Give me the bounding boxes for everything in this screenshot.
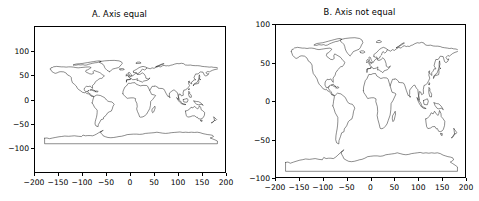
- x-tick-mark: [226, 173, 227, 176]
- coastline-north-america: [50, 66, 104, 96]
- x-tick-mark: [442, 178, 443, 181]
- y-tick-label: 50: [0, 71, 29, 80]
- x-tick-label: 50: [149, 178, 159, 187]
- x-tick-mark: [106, 173, 107, 176]
- coastline-britain: [128, 72, 131, 76]
- coastline-ireland: [126, 74, 128, 76]
- x-tick-mark: [371, 178, 372, 181]
- y-tick-mark: [272, 63, 275, 64]
- coastline-south-america: [333, 93, 355, 144]
- y-tick-mark: [31, 75, 34, 76]
- x-tick-mark: [58, 173, 59, 176]
- coastline-novaya-zemlya: [396, 43, 404, 48]
- x-tick-mark: [178, 173, 179, 176]
- coastline-novaya-zemlya: [156, 64, 164, 67]
- coastline-africa: [123, 83, 156, 117]
- coastline-madagascar: [152, 107, 155, 113]
- subplot-axis-not-equal: B. Axis not equal −200−150−100−500501001…: [240, 0, 479, 201]
- coastline-layer: [34, 26, 226, 173]
- coastline-new-guinea: [434, 103, 443, 110]
- x-tick-mark: [323, 178, 324, 181]
- x-tick-label: −200: [24, 178, 45, 187]
- coastline-java-sumatra: [417, 98, 426, 109]
- coastline-canada-arctic-1: [314, 38, 342, 45]
- coastline-philippines: [189, 92, 192, 98]
- coastline-south-america: [92, 95, 114, 127]
- coastline-hispaniola: [95, 91, 98, 92]
- y-tick-mark: [31, 124, 34, 125]
- x-tick-mark: [275, 178, 276, 181]
- y-tick-label: 0: [239, 97, 270, 106]
- y-tick-label: −50: [239, 135, 270, 144]
- coastline-cuba: [90, 89, 95, 91]
- coastline-sri-lanka: [169, 97, 170, 98]
- x-tick-label: 0: [368, 183, 373, 192]
- x-tick-mark: [299, 178, 300, 181]
- y-tick-mark: [272, 24, 275, 25]
- coastline-taiwan: [429, 83, 430, 85]
- x-tick-mark: [82, 173, 83, 176]
- coastline-java-sumatra: [177, 98, 186, 105]
- coastline-scandinavia: [133, 66, 147, 73]
- y-tick-label: 100: [239, 20, 270, 29]
- coastline-asia-east: [150, 69, 218, 100]
- y-tick-mark: [31, 51, 34, 52]
- y-tick-mark: [31, 148, 34, 149]
- x-tick-label: 200: [459, 183, 474, 192]
- y-tick-label: −50: [0, 119, 29, 128]
- coastline-cuba: [331, 84, 336, 87]
- x-tick-mark: [154, 173, 155, 176]
- x-tick-label: 0: [128, 178, 133, 187]
- coastline-sri-lanka: [410, 96, 411, 98]
- x-tick-mark: [34, 173, 35, 176]
- panel-b-axes: [275, 24, 466, 178]
- coastline-layer: [275, 24, 466, 178]
- coastline-britain: [369, 57, 372, 64]
- panel-a-title: A. Axis equal: [0, 9, 239, 19]
- coastline-africa: [363, 74, 396, 129]
- x-tick-mark: [130, 173, 131, 176]
- x-tick-label: −100: [312, 183, 333, 192]
- x-tick-label: 150: [435, 183, 450, 192]
- coastline-philippines: [429, 88, 432, 97]
- x-tick-label: −100: [72, 178, 93, 187]
- figure-canvas: A. Axis equal −200−150−100−5005010015020…: [0, 0, 479, 201]
- coastline-eurasia: [367, 58, 390, 73]
- coastline-svalbard: [377, 40, 382, 42]
- coastline-asia-east: [390, 52, 457, 101]
- coastline-new-guinea: [194, 101, 203, 105]
- coastline-svalbard: [136, 62, 141, 63]
- coastline-japan: [434, 67, 441, 78]
- coastline-sakhalin: [439, 61, 440, 67]
- coastline-antarctica: [286, 150, 458, 172]
- coastline-madagascar: [392, 112, 395, 122]
- panel-a-axes: [34, 26, 226, 173]
- y-tick-mark: [272, 178, 275, 179]
- coastline-borneo-indonesia: [424, 99, 429, 105]
- coastline-greenland: [99, 60, 122, 71]
- x-tick-mark: [202, 173, 203, 176]
- panel-b-title: B. Axis not equal: [240, 7, 479, 17]
- coastline-tasmania: [441, 134, 443, 136]
- coastline-australia: [185, 106, 204, 119]
- y-tick-mark: [272, 101, 275, 102]
- subplot-axis-equal: A. Axis equal −200−150−100−5005010015020…: [0, 0, 239, 201]
- coastline-new-zealand: [451, 129, 456, 138]
- coastline-australia: [426, 110, 445, 131]
- coastline-hispaniola: [336, 87, 339, 88]
- x-tick-label: −200: [265, 183, 286, 192]
- x-tick-label: −150: [288, 183, 309, 192]
- coastline-canada-arctic-1: [73, 61, 101, 65]
- y-tick-label: 100: [0, 47, 29, 56]
- coastline-scandinavia: [374, 47, 387, 59]
- x-tick-label: 150: [195, 178, 210, 187]
- coastline-new-zealand: [211, 117, 217, 123]
- x-tick-mark: [394, 178, 395, 181]
- coastline-iceland: [360, 51, 365, 53]
- x-tick-label: −150: [48, 178, 69, 187]
- coastline-tasmania: [201, 120, 203, 121]
- x-tick-label: −50: [339, 183, 355, 192]
- y-tick-label: 50: [239, 58, 270, 67]
- x-tick-label: −50: [98, 178, 114, 187]
- coastline-antarctica: [45, 130, 218, 143]
